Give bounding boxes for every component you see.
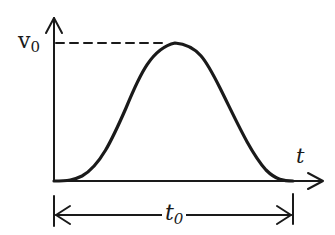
- velocity-curve: [54, 43, 293, 181]
- y-label-subscript: 0: [30, 38, 40, 56]
- diagram-canvas: v0 t t0: [0, 0, 335, 235]
- y-axis-label: v0: [18, 30, 40, 55]
- duration-label: t0: [162, 202, 186, 227]
- duration-label-base: t: [165, 200, 174, 225]
- duration-label-subscript: 0: [174, 210, 184, 228]
- y-label-base: v: [18, 28, 30, 53]
- x-axis-label: t: [296, 146, 304, 167]
